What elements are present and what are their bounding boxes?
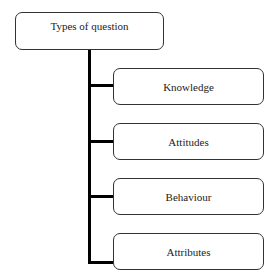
trunk-line (88, 50, 91, 264)
branch-line-2 (88, 140, 114, 143)
root-node: Types of question (15, 12, 164, 50)
root-label: Types of question (50, 20, 128, 32)
branch-line-3 (88, 195, 114, 198)
node-label: Knowledge (163, 81, 214, 93)
branch-line-1 (88, 84, 114, 87)
node-behaviour: Behaviour (113, 178, 264, 215)
node-knowledge: Knowledge (113, 68, 264, 105)
node-label: Attitudes (168, 136, 208, 148)
node-label: Behaviour (166, 191, 212, 203)
node-attributes: Attributes (113, 233, 264, 270)
node-attitudes: Attitudes (113, 123, 264, 160)
node-label: Attributes (167, 246, 211, 258)
branch-line-4 (88, 261, 114, 264)
